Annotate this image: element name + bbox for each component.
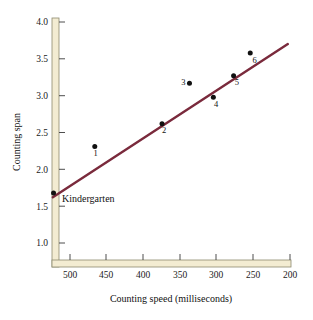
- y-ticklabel: 2.5: [36, 128, 48, 138]
- x-ticklabel: 250: [246, 270, 261, 280]
- y-ticklabel: 3.5: [36, 54, 48, 64]
- x-axis-title: Counting speed (milliseconds): [110, 293, 232, 305]
- y-axis-ticklabels: 4.0 3.5 3.0 2.5 2.0 1.5 1.0: [36, 17, 48, 248]
- point-label-5: 5: [235, 77, 239, 87]
- point-label-1: 1: [93, 148, 97, 158]
- x-axis-band: [52, 260, 291, 267]
- data-points: [51, 50, 253, 195]
- point-label-2: 2: [162, 125, 166, 135]
- x-axis-ticklabels: 500 450 400 350 300 250 200: [63, 270, 298, 280]
- x-ticklabel: 400: [136, 270, 151, 280]
- point-label-kindergarten: Kindergarten: [62, 193, 115, 204]
- data-point-3[interactable]: [187, 81, 192, 86]
- x-ticklabel: 200: [283, 270, 298, 280]
- point-label-6: 6: [252, 55, 256, 65]
- y-axis-band: [52, 18, 59, 267]
- y-ticklabel: 1.0: [36, 238, 48, 248]
- y-axis-ticks: [59, 22, 65, 243]
- trend-line: [53, 44, 288, 197]
- x-ticklabel: 450: [99, 270, 114, 280]
- y-ticklabel: 2.0: [36, 165, 48, 175]
- data-point-kindergarten[interactable]: [51, 190, 56, 195]
- x-ticklabel: 350: [173, 270, 188, 280]
- y-ticklabel: 1.5: [36, 202, 48, 212]
- point-label-4: 4: [214, 99, 219, 109]
- x-ticklabel: 500: [63, 270, 78, 280]
- scatter-plot-svg: 4.0 3.5 3.0 2.5 2.0 1.5 1.0 500 450 400 …: [0, 0, 313, 320]
- y-ticklabel: 4.0: [36, 17, 48, 27]
- x-ticklabel: 300: [209, 270, 224, 280]
- y-axis-title: Counting span: [11, 113, 22, 171]
- point-label-3: 3: [181, 77, 185, 87]
- x-axis-ticks: [70, 254, 290, 260]
- y-ticklabel: 3.0: [36, 91, 48, 101]
- chart-figure: 4.0 3.5 3.0 2.5 2.0 1.5 1.0 500 450 400 …: [0, 0, 313, 320]
